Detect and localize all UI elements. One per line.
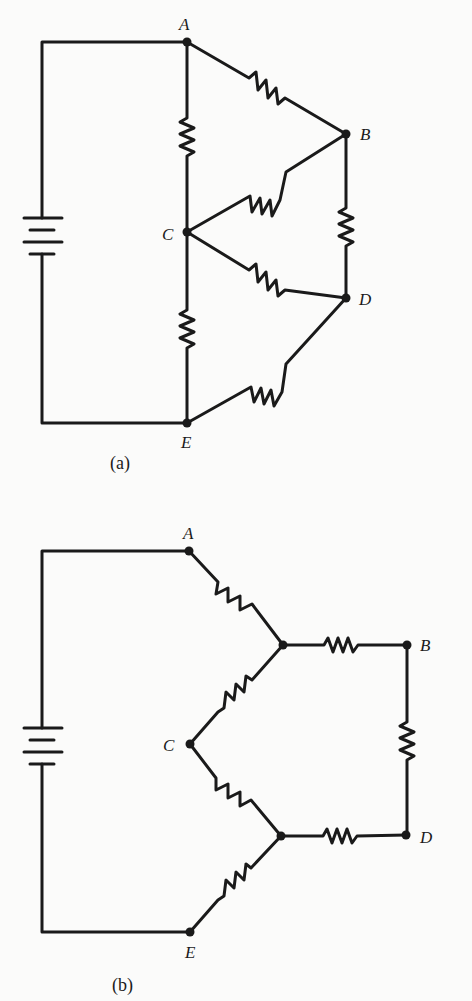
resistor-c-y2 xyxy=(190,744,281,836)
node-d xyxy=(342,294,351,303)
label-d: D xyxy=(358,290,372,309)
panel-a: A B C D E (a) xyxy=(24,15,372,474)
label-a: A xyxy=(182,524,194,543)
battery-icon xyxy=(24,728,62,764)
node-wye-lower xyxy=(277,832,286,841)
resistor-c-d xyxy=(187,232,346,298)
label-b: B xyxy=(420,636,431,655)
wire-top-b xyxy=(42,551,189,728)
label-c: C xyxy=(163,736,175,755)
node-d xyxy=(402,831,411,840)
label-b: B xyxy=(360,125,371,144)
resistor-b-d xyxy=(339,134,353,298)
node-a xyxy=(183,38,192,47)
resistor-b-d xyxy=(400,645,414,835)
resistor-a-b xyxy=(187,42,346,134)
caption-a: (a) xyxy=(110,453,130,474)
resistor-y2-d xyxy=(281,829,406,843)
label-a: A xyxy=(178,15,190,34)
resistor-c-e xyxy=(180,232,194,423)
battery-icon xyxy=(24,218,62,254)
label-e: E xyxy=(184,943,196,962)
caption-b: (b) xyxy=(112,975,133,996)
label-d: D xyxy=(419,828,433,847)
node-c xyxy=(183,228,192,237)
resistor-y2-e xyxy=(190,836,281,932)
node-b xyxy=(403,641,412,650)
circuit-diagram: A B C D E (a) xyxy=(0,0,472,1001)
node-a xyxy=(185,547,194,556)
node-c xyxy=(186,740,195,749)
resistor-y1-c xyxy=(190,645,283,744)
resistor-e-d xyxy=(187,298,346,423)
wire-bottom-b xyxy=(42,764,190,932)
panel-b: A B C D E (b) xyxy=(24,524,433,996)
wire-top-a xyxy=(42,42,187,218)
wire-bottom-a xyxy=(42,254,187,423)
node-e xyxy=(186,928,195,937)
node-b xyxy=(342,130,351,139)
resistor-c-b xyxy=(187,134,346,232)
node-e xyxy=(183,419,192,428)
node-wye-upper xyxy=(279,641,288,650)
label-e: E xyxy=(180,433,192,452)
resistor-a-y1 xyxy=(189,551,283,645)
label-c: C xyxy=(162,225,174,244)
resistor-y1-b xyxy=(283,638,407,652)
resistor-a-c xyxy=(180,42,194,232)
